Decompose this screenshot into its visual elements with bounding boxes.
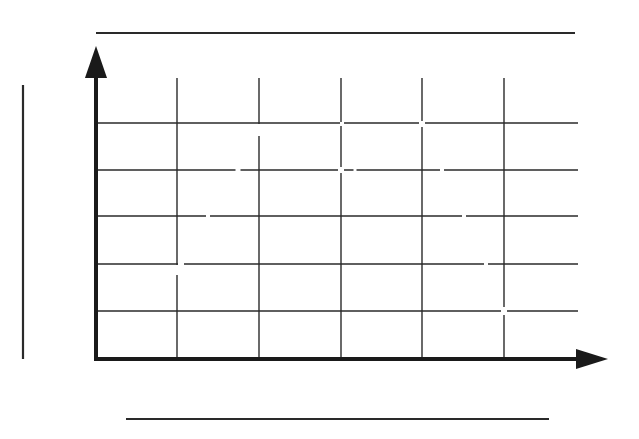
gridline-break [419, 121, 425, 127]
vertical-gridlines [177, 78, 504, 359]
coordinate-grid-diagram [0, 0, 639, 439]
gridline-break [175, 265, 179, 275]
gridline-break [206, 214, 210, 218]
gridline-break [501, 307, 507, 315]
x-axis-arrow-icon [576, 349, 608, 369]
gridline-break [338, 167, 344, 173]
gridline-break [236, 168, 241, 172]
gridline-break [257, 124, 261, 136]
y-axis-arrow-icon [85, 46, 107, 78]
horizontal-gridlines [96, 123, 578, 311]
gridline-break [354, 168, 357, 172]
gridline-break [484, 262, 488, 266]
gridline-break [440, 168, 444, 172]
gridline-break [462, 214, 466, 218]
gridline-break [340, 122, 344, 126]
